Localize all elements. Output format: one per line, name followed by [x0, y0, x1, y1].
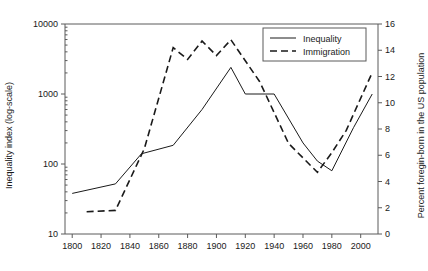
x-axis-tick-label: 1800	[62, 241, 82, 251]
y-axis-right-tick-label: 0	[385, 229, 390, 239]
data-series-group	[72, 40, 372, 212]
series-line-immigration	[87, 40, 373, 212]
chart-plot-area: 10100100010000 0246810121416 18001820184…	[0, 0, 428, 271]
chart-legend: InequalityImmigration	[263, 28, 366, 61]
y-axis-left-tick-label: 100	[43, 159, 58, 169]
x-axis-tick-label: 1920	[235, 241, 255, 251]
legend-label-immigration: Immigration	[303, 47, 350, 57]
x-axis-tick-label: 1980	[322, 241, 342, 251]
y-axis-right-tick-label: 4	[385, 177, 390, 187]
x-axis-tick-label: 1840	[120, 241, 140, 251]
y-axis-left-tick-label: 10000	[33, 19, 58, 29]
chart-container: Inequality index (log-scale) Percent for…	[0, 0, 428, 271]
y-axis-right-tick-label: 8	[385, 124, 390, 134]
y-axis-right-tick-label: 16	[385, 19, 395, 29]
x-axis-tick-label: 1940	[264, 241, 284, 251]
y-axis-left-ticks: 10100100010000	[33, 19, 68, 239]
series-line-inequality	[72, 67, 372, 193]
x-axis-tick-label: 1860	[149, 241, 169, 251]
y-axis-right-tick-label: 12	[385, 72, 395, 82]
x-axis-tick-label: 1880	[178, 241, 198, 251]
x-axis-tick-label: 1900	[206, 241, 226, 251]
y-axis-left-tick-label: 10	[48, 229, 58, 239]
y-axis-right-tick-label: 10	[385, 98, 395, 108]
y-axis-right-tick-label: 14	[385, 45, 395, 55]
x-axis-ticks: 1800182018401860188019001920194019601980…	[62, 234, 371, 251]
x-axis-tick-label: 1960	[293, 241, 313, 251]
y-axis-right-ticks: 0246810121416	[378, 19, 395, 239]
y-axis-right-tick-label: 6	[385, 150, 390, 160]
x-axis-tick-label: 1820	[91, 241, 111, 251]
y-axis-left-tick-label: 1000	[38, 89, 58, 99]
x-axis-tick-label: 2000	[351, 241, 371, 251]
legend-label-inequality: Inequality	[303, 34, 342, 44]
y-axis-right-tick-label: 2	[385, 203, 390, 213]
